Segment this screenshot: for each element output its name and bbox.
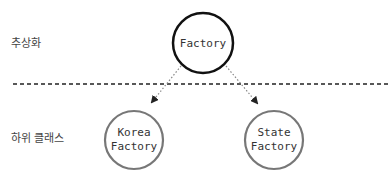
korea-factory-node: Korea Factory	[105, 111, 163, 169]
factory-node-label: Factory	[180, 37, 227, 50]
state-factory-node: State Factory	[245, 111, 303, 169]
state-factory-label-line1: State	[257, 126, 290, 139]
korea-factory-label-line1: Korea	[117, 126, 150, 139]
factory-diagram: 추상화 하위 클래스 Factory Korea Factory State F…	[0, 0, 390, 181]
subclass-level-label: 하위 클래스	[11, 131, 65, 145]
korea-factory-label-line2: Factory	[111, 140, 158, 153]
state-factory-label-line2: Factory	[251, 140, 298, 153]
factory-node: Factory	[173, 13, 233, 73]
abstract-level-label: 추상화	[11, 37, 41, 50]
